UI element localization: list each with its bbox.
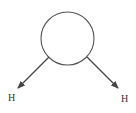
left-bond-arrow: [18, 57, 49, 88]
right-bond-arrow: [87, 57, 118, 88]
molecule-diagram: H H: [0, 0, 136, 113]
left-hydrogen-label: H: [8, 92, 15, 103]
right-hydrogen-label: H: [121, 93, 128, 104]
